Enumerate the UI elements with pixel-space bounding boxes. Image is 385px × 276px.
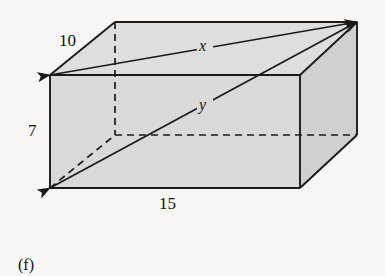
figure-caption: (f) [18,257,34,273]
diagonal-label-y: y [199,97,206,113]
diagonal-label-x: x [199,38,206,54]
dimension-label-depth: 10 [59,32,76,49]
figure-page: 10 7 15 x y (f) [0,0,385,276]
rectangular-box-diagram [0,0,385,276]
box-front-face [50,75,300,188]
dimension-label-height: 7 [28,122,37,139]
dimension-label-width: 15 [159,195,176,212]
